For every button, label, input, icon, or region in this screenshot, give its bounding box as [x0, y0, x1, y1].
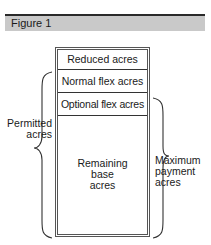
remaining-line-3: acres — [58, 180, 147, 191]
permitted-line-2: acres — [2, 129, 52, 140]
permitted-acres-label: Permitted acres — [2, 118, 52, 140]
row-reduced-acres: Reduced acres — [58, 50, 147, 70]
row-remaining-base-acres: Remaining base acres — [58, 116, 147, 234]
row-optional-flex-acres: Optional flex acres — [58, 93, 147, 116]
left-brace-icon — [30, 70, 54, 240]
figure-title: Figure 1 — [11, 17, 51, 29]
row-normal-flex-acres: Normal flex acres — [58, 70, 147, 93]
figure-header: Figure 1 — [5, 14, 205, 31]
maximum-payment-acres-label: Maximum payment acres — [155, 155, 201, 188]
maximum-line-3: acres — [155, 177, 201, 188]
acreage-stack: Reduced acres Normal flex acres Optional… — [55, 47, 150, 237]
